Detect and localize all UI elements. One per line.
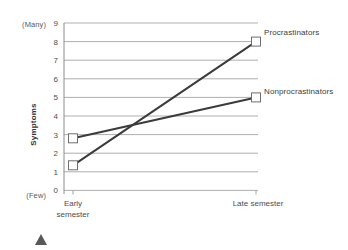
- y-axis-many-annotation: (Many): [2, 20, 46, 29]
- y-tick-label-4: 4: [44, 112, 58, 121]
- series-label-nonprocrastinators: Nonprocrastinators: [264, 87, 333, 96]
- marker-nonprocrastinators-late: [252, 93, 261, 102]
- y-tick-label-0: 0: [44, 186, 58, 195]
- x-axis-ticks: [73, 190, 256, 194]
- y-tick-label-9: 9: [44, 19, 58, 28]
- y-tick-label-7: 7: [44, 56, 58, 65]
- y-axis-title: Symptoms: [29, 90, 38, 160]
- y-tick-label-8: 8: [44, 37, 58, 46]
- series-label-procrastinators: Procrastinators: [264, 28, 319, 37]
- y-tick-label-2: 2: [44, 149, 58, 158]
- y-tick-label-6: 6: [44, 74, 58, 83]
- marker-procrastinators-late: [252, 37, 261, 46]
- marker-nonprocrastinators-early: [69, 134, 78, 143]
- y-tick-label-3: 3: [44, 130, 58, 139]
- y-tick-label-5: 5: [44, 93, 58, 102]
- symptoms-line-chart: (Many) (Few) 9 8 7 6 5 4 3 2 1 0 Symptom…: [0, 0, 348, 250]
- marker-procrastinators-early: [69, 161, 78, 170]
- y-tick-label-1: 1: [44, 167, 58, 176]
- up-arrow-icon: [35, 234, 47, 245]
- x-axis-label-early-semester: Early semester: [38, 199, 108, 220]
- x-axis-label-late-semester: Late semester: [213, 199, 303, 210]
